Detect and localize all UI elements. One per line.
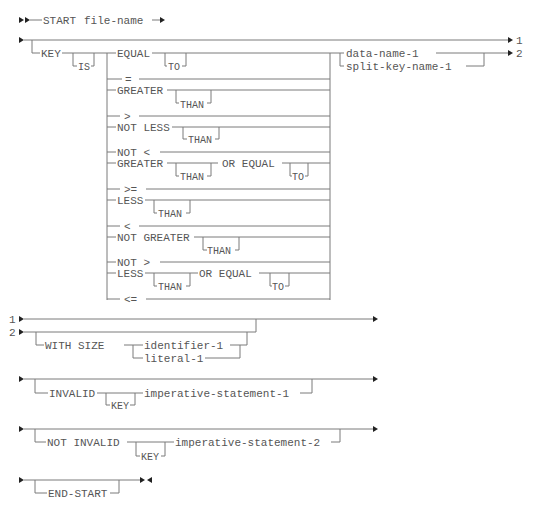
double-arrow-start-icon	[19, 17, 24, 23]
syntax-diagram: START file-name 1 KEY IS EQUAL TO	[0, 0, 534, 513]
op-lte: LESS	[117, 268, 144, 280]
arrow-start-icon	[19, 426, 24, 432]
op-greater: GREATER	[117, 85, 164, 97]
op-not-less-than: THAN	[188, 135, 212, 146]
op-equal: EQUAL	[117, 48, 150, 60]
op-less-than: THAN	[158, 209, 182, 220]
operand-identifier-1: identifier-1	[144, 340, 224, 352]
arrow-right-icon	[140, 477, 145, 483]
invalid-key-keyword: KEY	[111, 401, 129, 412]
op-lte-than: THAN	[158, 282, 182, 293]
arrow-right-icon	[508, 50, 513, 56]
continuation-2-label: 2	[516, 48, 523, 60]
arrow-start-icon	[19, 329, 24, 335]
start-line: START file-name	[19, 15, 165, 27]
arrow-start-icon	[19, 376, 24, 382]
start-keyword: START	[43, 15, 76, 27]
arrow-right-icon	[160, 17, 165, 23]
not-invalid-keyword: NOT INVALID	[47, 437, 120, 449]
arrow-right-icon	[508, 37, 513, 43]
op-gte-or-equal: OR EQUAL	[222, 158, 275, 170]
file-name-operand: file-name	[84, 15, 143, 27]
continuation-1-start-label: 1	[9, 314, 16, 326]
arrow-start-icon	[19, 316, 24, 322]
arrow-start-icon	[19, 37, 24, 43]
op-lte-or-equal: OR EQUAL	[199, 268, 252, 280]
op-lte-to: TO	[272, 282, 284, 293]
arrow-right-icon	[373, 376, 378, 382]
op-not-less: NOT LESS	[117, 122, 170, 134]
end-arrow-icon	[147, 477, 152, 483]
imperative-statement-2: imperative-statement-2	[175, 437, 320, 449]
op-equal-to: TO	[168, 62, 180, 73]
operand-data-name-1: data-name-1	[346, 48, 419, 60]
op-lte-symbol: <=	[124, 294, 137, 306]
continuation-1-label: 1	[516, 35, 523, 47]
invalid-keyword: INVALID	[49, 388, 96, 400]
operand-split-key-name-1: split-key-name-1	[346, 61, 452, 73]
op-gte-to: TO	[292, 172, 304, 183]
imperative-statement-1: imperative-statement-1	[144, 388, 290, 400]
size-clause: 1 2 WITH SIZE identifier-1 literal-1	[9, 314, 378, 365]
is-keyword: IS	[78, 62, 90, 73]
end-clause: END-START	[19, 477, 152, 500]
with-size-keyword: WITH SIZE	[45, 340, 105, 352]
arrow-right-icon	[373, 426, 378, 432]
op-gte-than: THAN	[180, 172, 204, 183]
op-not-greater-than: THAN	[207, 246, 231, 257]
op-gte: GREATER	[117, 158, 164, 170]
op-greater-than: THAN	[180, 100, 204, 111]
not-invalid-key-keyword: KEY	[141, 452, 159, 463]
op-less: LESS	[117, 195, 144, 207]
continuation-2-start-label: 2	[9, 327, 16, 339]
arrow-head-icon	[25, 17, 30, 23]
key-keyword: KEY	[41, 48, 61, 60]
invalid-clause: INVALID KEY imperative-statement-1	[19, 376, 378, 412]
operand-literal-1: literal-1	[144, 353, 204, 365]
not-invalid-clause: NOT INVALID KEY imperative-statement-2	[19, 426, 378, 463]
key-clause: 1 KEY IS EQUAL TO = GREATER	[19, 35, 523, 306]
arrow-right-icon	[373, 316, 378, 322]
end-start-keyword: END-START	[48, 488, 108, 500]
op-not-greater: NOT GREATER	[117, 232, 190, 244]
arrow-start-icon	[19, 477, 24, 483]
